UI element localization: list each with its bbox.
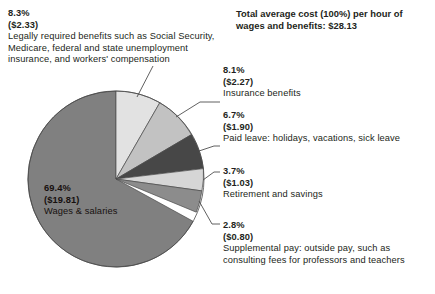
callout-supplemental: 2.8% ($0.80) Supplemental pay: outside p… [223,220,428,266]
legally-required-amount: ($2.33) [8,20,228,32]
paid-leave-amount: ($1.90) [223,122,435,134]
paid-leave-text: Paid leave: holidays, vacations, sick le… [223,133,435,145]
pie-chart-figure: Total average cost (100%) per hour of wa… [0,0,435,294]
insurance-text: Insurance benefits [223,88,428,100]
leader-line-paid-leave [199,146,220,151]
leader-line-retirement [203,172,220,180]
callout-retirement: 3.7% ($1.03) Retirement and savings [223,166,428,201]
wages-percent: 69.4% [44,183,174,195]
chart-title: Total average cost (100%) per hour of wa… [236,8,432,33]
retirement-amount: ($1.03) [223,178,428,190]
insurance-amount: ($2.27) [223,77,428,89]
leader-line-insurance [176,102,220,117]
insurance-percent: 8.1% [223,65,428,77]
callout-insurance: 8.1% ($2.27) Insurance benefits [223,65,428,100]
retirement-percent: 3.7% [223,166,428,178]
leader-line-legally-required [137,66,153,97]
supplemental-text: Supplemental pay: outside pay, such as c… [223,243,428,266]
callout-paid-leave: 6.7% ($1.90) Paid leave: holidays, vacat… [223,110,435,145]
paid-leave-percent: 6.7% [223,110,435,122]
callout-wages-salaries: 69.4% ($19.81) Wages & salaries [44,183,174,218]
callout-legally-required: 8.3% ($2.33) Legally required benefits s… [8,8,228,66]
wages-text: Wages & salaries [44,206,174,218]
supplemental-percent: 2.8% [223,220,428,232]
legally-required-percent: 8.3% [8,8,228,20]
wages-amount: ($19.81) [44,195,174,207]
supplemental-amount: ($0.80) [223,232,428,244]
legally-required-text: Legally required benefits such as Social… [8,31,228,66]
leader-line-supplemental [199,201,220,224]
retirement-text: Retirement and savings [223,189,428,201]
